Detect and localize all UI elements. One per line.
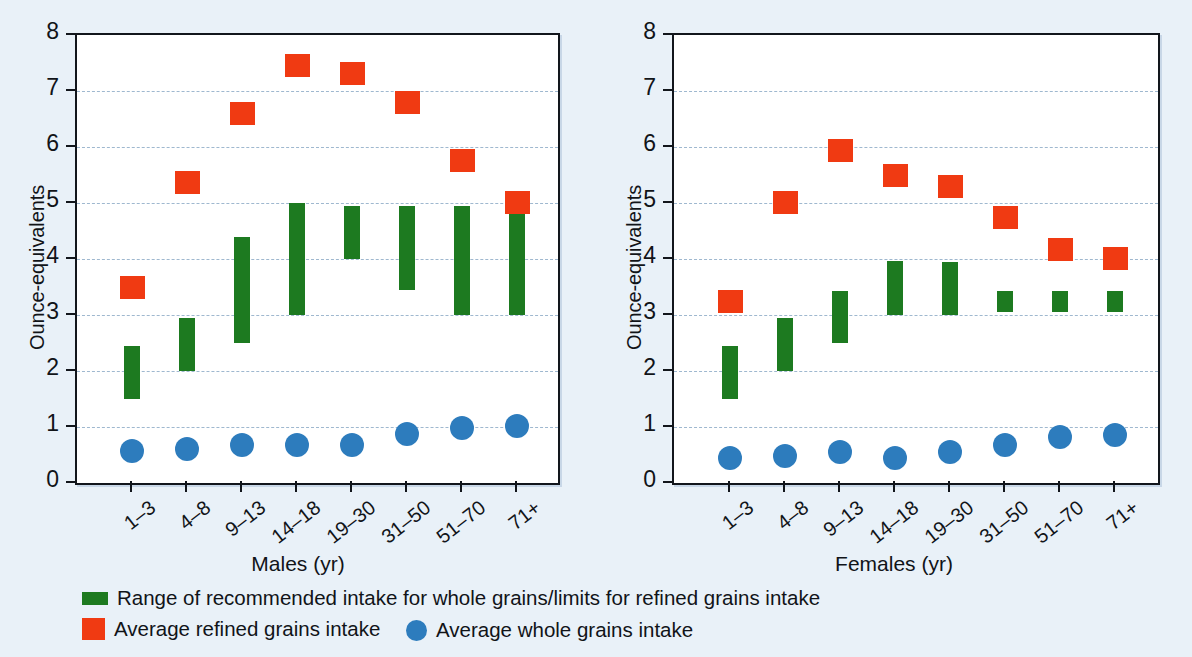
gridline bbox=[77, 427, 558, 428]
y-axis-tick bbox=[663, 201, 674, 203]
x-axis-tick bbox=[783, 481, 785, 492]
y-axis-tick-label: 3 bbox=[616, 298, 656, 325]
y-axis-tick bbox=[66, 33, 77, 35]
whole-grains-marker bbox=[1048, 425, 1072, 449]
gridline bbox=[674, 259, 1158, 260]
gridline bbox=[674, 147, 1158, 148]
refined-grains-marker bbox=[285, 54, 310, 77]
refined-grains-marker bbox=[883, 164, 908, 187]
whole-grains-marker bbox=[285, 433, 309, 457]
y-axis-tick bbox=[66, 425, 77, 427]
x-axis-tick bbox=[515, 481, 517, 492]
x-axis-tick bbox=[838, 481, 840, 492]
range-bar-mark bbox=[1107, 291, 1123, 312]
legend-item-recommended-range: Range of recommended intake for whole gr… bbox=[82, 586, 820, 610]
y-axis-tick-label: 2 bbox=[616, 354, 656, 381]
y-axis-tick-label: 8 bbox=[19, 18, 59, 45]
x-axis-tick bbox=[1113, 481, 1115, 492]
y-axis-tick-label: 4 bbox=[19, 242, 59, 269]
range-bar-mark bbox=[399, 206, 415, 290]
refined-grains-marker bbox=[395, 91, 420, 114]
whole-grains-marker bbox=[120, 439, 144, 463]
whole-grains-marker bbox=[828, 440, 852, 464]
refined-grains-marker bbox=[450, 149, 475, 172]
plot-area-females bbox=[672, 33, 1160, 485]
y-axis-tick bbox=[66, 481, 77, 483]
y-axis-tick-label: 5 bbox=[616, 186, 656, 213]
gridline bbox=[674, 315, 1158, 316]
x-axis-tick bbox=[240, 481, 242, 492]
y-axis-tick-label: 4 bbox=[616, 242, 656, 269]
grain-intake-figure: Ounce-equivalents 012345678 1–34–89–1314… bbox=[0, 0, 1192, 657]
x-axis-tick bbox=[460, 481, 462, 492]
y-axis-tick bbox=[663, 89, 674, 91]
range-bar-mark bbox=[179, 318, 195, 371]
y-axis-tick bbox=[663, 313, 674, 315]
y-axis-tick bbox=[663, 369, 674, 371]
range-bar-mark bbox=[509, 211, 525, 315]
range-bar-mark bbox=[124, 346, 140, 399]
gridline bbox=[674, 371, 1158, 372]
orange-square-swatch-icon bbox=[82, 618, 105, 640]
y-axis-tick bbox=[663, 145, 674, 147]
range-bar-mark bbox=[234, 237, 250, 343]
gridline bbox=[77, 147, 558, 148]
y-axis-tick bbox=[663, 33, 674, 35]
whole-grains-marker bbox=[450, 416, 474, 440]
y-axis-tick-label: 3 bbox=[19, 298, 59, 325]
refined-grains-marker bbox=[828, 139, 853, 162]
y-axis-tick bbox=[66, 313, 77, 315]
refined-grains-marker bbox=[938, 175, 963, 198]
range-bar-mark bbox=[344, 206, 360, 259]
whole-grains-marker bbox=[938, 440, 962, 464]
whole-grains-marker bbox=[993, 433, 1017, 457]
refined-grains-marker bbox=[1103, 247, 1128, 270]
plot-area-males bbox=[75, 33, 560, 485]
refined-grains-marker bbox=[120, 276, 145, 299]
whole-grains-marker bbox=[773, 444, 797, 468]
range-bar-mark bbox=[722, 346, 738, 399]
x-axis-tick bbox=[948, 481, 950, 492]
range-bar-mark bbox=[997, 291, 1013, 312]
x-axis-tick bbox=[728, 481, 730, 492]
panel-males: Ounce-equivalents 012345678 1–34–89–1314… bbox=[0, 0, 596, 585]
y-axis-tick-label: 1 bbox=[19, 410, 59, 437]
gridline bbox=[77, 259, 558, 260]
x-axis-tick bbox=[1058, 481, 1060, 492]
y-axis-tick-label: 2 bbox=[19, 354, 59, 381]
gridline bbox=[77, 203, 558, 204]
panel-females: Ounce-equivalents 012345678 1–34–89–1314… bbox=[596, 0, 1192, 585]
y-axis-tick bbox=[663, 425, 674, 427]
chart-legend: Range of recommended intake for whole gr… bbox=[0, 585, 1192, 657]
x-axis-tick bbox=[893, 481, 895, 492]
whole-grains-marker bbox=[505, 414, 529, 438]
green-bar-swatch-icon bbox=[82, 592, 108, 605]
y-axis-tick-label: 5 bbox=[19, 186, 59, 213]
gridline bbox=[674, 91, 1158, 92]
x-axis-title-females: Females (yr) bbox=[596, 552, 1192, 576]
refined-grains-marker bbox=[505, 191, 530, 214]
whole-grains-marker bbox=[340, 433, 364, 457]
refined-grains-marker bbox=[175, 171, 200, 194]
whole-grains-marker bbox=[395, 422, 419, 446]
y-axis-tick-label: 1 bbox=[616, 410, 656, 437]
y-axis-tick-label: 0 bbox=[19, 466, 59, 493]
legend-item-whole-grains: Average whole grains intake bbox=[406, 618, 693, 642]
y-axis-tick bbox=[66, 257, 77, 259]
gridline bbox=[77, 315, 558, 316]
x-axis-tick bbox=[295, 481, 297, 492]
y-axis-tick-label: 7 bbox=[616, 74, 656, 101]
refined-grains-marker bbox=[230, 102, 255, 125]
whole-grains-marker bbox=[1103, 423, 1127, 447]
x-axis-title-males: Males (yr) bbox=[0, 552, 596, 576]
whole-grains-marker bbox=[883, 446, 907, 470]
gridline bbox=[77, 371, 558, 372]
y-axis-tick-label: 6 bbox=[19, 130, 59, 157]
range-bar-mark bbox=[942, 262, 958, 315]
range-bar-mark bbox=[832, 291, 848, 343]
refined-grains-marker bbox=[993, 206, 1018, 229]
x-axis-tick bbox=[405, 481, 407, 492]
y-axis-tick-label: 6 bbox=[616, 130, 656, 157]
gridline bbox=[674, 427, 1158, 428]
whole-grains-marker bbox=[230, 433, 254, 457]
